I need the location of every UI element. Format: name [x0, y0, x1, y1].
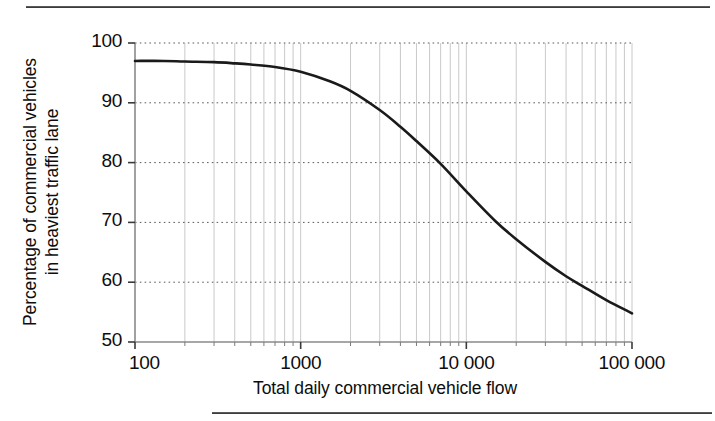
figure-page: Percentage of commercial vehicles in hea… — [0, 0, 715, 421]
y-tick-label: 70 — [60, 209, 122, 231]
data-curve — [135, 61, 632, 313]
y-axis-label: Percentage of commercial vehicles in hea… — [19, 27, 63, 357]
y-axis-label-line-1: Percentage of commercial vehicles — [19, 27, 41, 357]
y-tick-label: 100 — [60, 30, 122, 52]
bottom-divider-rule — [212, 412, 712, 414]
y-axis-label-line-2: in heaviest traffic lane — [41, 27, 63, 357]
y-tick-label: 80 — [60, 150, 122, 172]
x-tick-label: 1000 — [280, 352, 321, 374]
chart-figure: Percentage of commercial vehicles in hea… — [0, 0, 715, 410]
y-tick-label: 90 — [60, 90, 122, 112]
x-tick-label: 100 000 — [599, 352, 666, 374]
minor-vertical-gridlines — [185, 43, 625, 342]
y-tick-label: 60 — [60, 269, 122, 291]
x-axis-label: Total daily commercial vehicle flow — [135, 378, 635, 399]
x-tick-label: 100 — [129, 352, 160, 374]
axis-lines — [135, 43, 632, 342]
x-tick-label: 10 000 — [438, 352, 494, 374]
y-tick-label: 50 — [60, 329, 122, 351]
horizontal-dotted-gridlines — [135, 43, 632, 282]
